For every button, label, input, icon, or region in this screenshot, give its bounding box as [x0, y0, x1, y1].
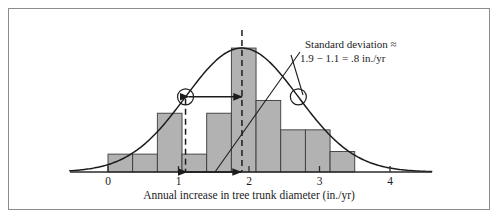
histogram-bar	[157, 113, 182, 172]
histogram-bar	[133, 154, 158, 172]
figure-root: 01234 Standard deviation ≈ 1.9 − 1.1 =	[0, 0, 499, 218]
axis-tick-label: 2	[246, 175, 252, 187]
axis-tick-label: 4	[387, 175, 393, 187]
axis-tick-label: 3	[317, 175, 323, 187]
axis-tick-labels: 01234	[105, 175, 393, 187]
x-axis-caption: Annual increase in tree trunk diameter (…	[143, 189, 355, 202]
histogram-bar	[281, 130, 306, 172]
histogram-bar	[231, 48, 256, 172]
histogram-bar	[207, 113, 232, 172]
statistics-figure: 01234 Standard deviation ≈ 1.9 − 1.1 =	[0, 0, 499, 218]
annotation-line-2: 1.9 − 1.1 = .8 in./yr	[300, 52, 386, 64]
histogram-bars	[108, 48, 355, 172]
axis-tick-label: 0	[105, 175, 111, 187]
histogram-bar	[330, 152, 355, 172]
histogram-bar	[305, 130, 330, 172]
axis-tick-label: 1	[176, 175, 182, 187]
annotation-text-block: Standard deviation ≈ 1.9 − 1.1 = .8 in./…	[300, 38, 397, 64]
histogram-bar	[256, 100, 281, 172]
annotation-line-1: Standard deviation ≈	[305, 38, 397, 50]
